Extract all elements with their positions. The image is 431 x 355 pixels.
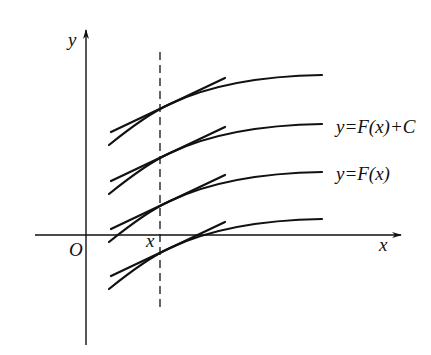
- y-axis-label: y: [66, 29, 77, 50]
- curve-2: [109, 124, 322, 194]
- curve-4: [109, 219, 322, 289]
- x-axis-label: x: [378, 234, 388, 255]
- curve-label-base: y=F(x): [334, 163, 390, 185]
- antiderivative-family-diagram: y x O x y=F(x)+C y=F(x): [0, 0, 431, 355]
- x0-label: x: [145, 230, 155, 251]
- curve-label-shifted: y=F(x)+C: [334, 116, 416, 138]
- curve-family: [109, 75, 322, 289]
- origin-label: O: [69, 239, 83, 260]
- curve-1: [109, 75, 322, 145]
